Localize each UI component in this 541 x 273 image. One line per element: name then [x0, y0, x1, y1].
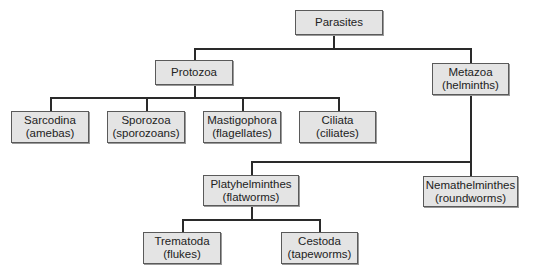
- node-sublabel: (flagellates): [212, 127, 271, 140]
- connector-line: [194, 48, 196, 60]
- node-label: Nemathelminthes: [426, 179, 515, 192]
- node-label: Sarcodina: [24, 114, 76, 127]
- node-label: Ciliata: [322, 114, 354, 127]
- node-platyhelminthes: Platyhelminthes (flatworms): [203, 175, 299, 206]
- node-parasites: Parasites: [295, 10, 383, 35]
- node-mastigophora: Mastigophora (flagellates): [203, 111, 281, 143]
- node-cestoda: Cestoda (tapeworms): [281, 232, 358, 264]
- connector-line: [251, 206, 253, 220]
- connector-line: [194, 48, 471, 50]
- node-ciliata: Ciliata (ciliates): [299, 111, 376, 143]
- node-nemathelminthes: Nemathelminthes (roundworms): [423, 176, 518, 207]
- connector-line: [333, 35, 335, 49]
- node-sublabel: (helminths): [442, 79, 499, 92]
- node-label: Platyhelminthes: [210, 178, 291, 191]
- node-label: Trematoda: [154, 235, 209, 248]
- connector-line: [251, 161, 471, 163]
- node-label: Sporozoa: [121, 114, 170, 127]
- node-trematoda: Trematoda (flukes): [143, 232, 221, 264]
- connector-line: [146, 97, 148, 111]
- node-sarcodina: Sarcodina (amebas): [11, 111, 89, 143]
- node-label: Cestoda: [298, 235, 341, 248]
- connector-line: [338, 97, 340, 111]
- connector-line: [470, 95, 472, 177]
- node-sublabel: (amebas): [26, 127, 75, 140]
- connector-line: [182, 219, 184, 232]
- node-sublabel: (flatworms): [223, 191, 280, 204]
- node-sublabel: (roundworms): [435, 192, 506, 205]
- node-sublabel: (ciliates): [316, 127, 359, 140]
- connector-line: [251, 161, 253, 175]
- connector-line: [319, 219, 321, 232]
- node-sporozoa: Sporozoa (sporozoans): [107, 111, 185, 143]
- node-label: Parasites: [315, 16, 363, 29]
- node-protozoa: Protozoa: [155, 60, 233, 85]
- connector-line: [50, 97, 52, 111]
- connector-line: [50, 97, 339, 99]
- node-sublabel: (flukes): [163, 248, 201, 261]
- node-sublabel: (sporozoans): [112, 127, 179, 140]
- node-label: Metazoa: [448, 66, 492, 79]
- connector-line: [182, 219, 320, 221]
- node-label: Protozoa: [171, 66, 217, 79]
- connector-line: [470, 48, 472, 64]
- node-metazoa: Metazoa (helminths): [432, 63, 509, 95]
- parasite-classification-diagram: Parasites Protozoa Metazoa (helminths) S…: [0, 0, 541, 273]
- node-label: Mastigophora: [207, 114, 277, 127]
- node-sublabel: (tapeworms): [288, 248, 352, 261]
- connector-line: [242, 97, 244, 111]
